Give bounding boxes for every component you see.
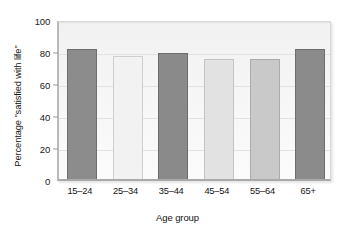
x-tick-label-55–64: 55–64 [238, 186, 288, 196]
bar-65+ [295, 49, 325, 179]
bar-15–24 [67, 49, 97, 179]
x-axis-title: Age group [0, 212, 355, 223]
bar-series [59, 22, 330, 179]
bar-35–44 [158, 53, 188, 179]
x-tick-label-65+: 65+ [283, 186, 333, 196]
bar-55–64 [250, 59, 280, 179]
x-tick-label-35–44: 35–44 [146, 186, 196, 196]
y-axis-title: Percentage "satisfied with life" [13, 13, 23, 199]
plot-area [57, 21, 331, 181]
y-tick-mark-20 [53, 149, 58, 150]
x-tick-label-15–24: 15–24 [55, 186, 105, 196]
chart-figure: 020406080100 Percentage "satisfied with … [0, 0, 355, 238]
y-tick-mark-80 [53, 53, 58, 54]
x-tick-label-45–54: 45–54 [192, 186, 242, 196]
y-tick-mark-40 [53, 117, 58, 118]
bar-45–54 [204, 59, 234, 179]
y-tick-mark-60 [53, 85, 58, 86]
bar-25–34 [113, 56, 143, 179]
x-tick-label-25–34: 25–34 [101, 186, 151, 196]
